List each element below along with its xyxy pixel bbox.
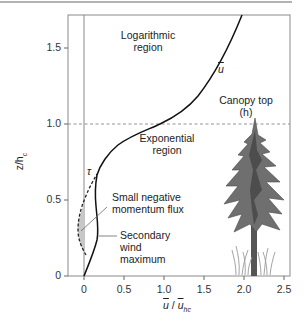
y-tick-label: 0 <box>55 269 61 281</box>
exp-line1: Exponential <box>140 132 195 144</box>
x-tick-label: 2.0 <box>237 283 252 295</box>
neg-line2: momentum flux <box>112 203 184 215</box>
x-tick-label: 0.5 <box>117 283 132 295</box>
y-tick-label: 1.0 <box>46 117 61 129</box>
sec-line3: maximum <box>120 253 170 265</box>
exp-line2: region <box>140 144 195 156</box>
x-ticks <box>84 276 284 280</box>
neg-line1: Small negative <box>112 191 184 203</box>
y-label-sub: c <box>21 153 28 157</box>
x-axis-label: u / uhc <box>163 299 191 316</box>
x-tick-label: 1.0 <box>157 283 172 295</box>
x-tick-label: 2.5 <box>277 283 292 295</box>
y-axis-label: z/hc <box>13 145 30 179</box>
y-label-text: z/h <box>13 156 25 170</box>
log-line1: Logarithmic <box>121 29 175 41</box>
canopy-wind-profile-figure: 0 0.5 1.0 1.5 2.0 2.5 0 0.5 1.0 1.5 z/hc… <box>0 0 305 329</box>
canopy-line2: (h) <box>219 106 273 118</box>
sec-line1: Secondary <box>120 229 170 241</box>
y-ticks <box>64 48 68 276</box>
log-line2: region <box>121 41 175 53</box>
sec-line2: wind <box>120 241 170 253</box>
u-curve-label: u <box>218 63 224 75</box>
y-tick-label: 0.5 <box>46 193 61 205</box>
x-label-sub: hc <box>184 306 191 313</box>
y-tick-label: 1.5 <box>46 41 61 53</box>
logarithmic-region-label: Logarithmic region <box>121 29 175 53</box>
exponential-region-label: Exponential region <box>140 132 195 156</box>
negative-flux-label: Small negative momentum flux <box>112 191 184 215</box>
canopy-top-label: Canopy top (h) <box>219 94 273 118</box>
x-tick-label: 0 <box>81 283 87 295</box>
x-tick-label: 1.5 <box>197 283 212 295</box>
secondary-max-label: Secondary wind maximum <box>120 229 170 265</box>
x-label-sep: / <box>169 299 178 311</box>
negative-flux-leader <box>81 207 107 231</box>
canopy-line1: Canopy top <box>219 94 273 106</box>
tau-curve-label: τ <box>87 165 91 177</box>
